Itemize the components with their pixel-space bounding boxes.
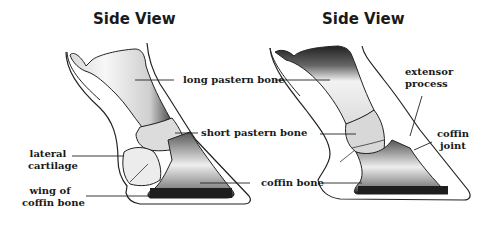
label-wing-of-coffin-bone: wing of coffin bone bbox=[22, 185, 78, 209]
label-extensor-process: extensor process bbox=[405, 66, 453, 90]
label-lateral-cartilage-line1: lateral bbox=[28, 148, 68, 160]
hoof-anatomy-diagram: Side View Side View long pastern bone sh… bbox=[0, 0, 493, 228]
label-coffin-joint-line1: coffin bbox=[436, 128, 470, 140]
label-coffin-joint-line2: joint bbox=[436, 140, 470, 152]
left-hoof-drawing bbox=[66, 43, 250, 204]
left-lateral-cartilage bbox=[123, 148, 161, 186]
left-long-pastern bbox=[70, 49, 170, 127]
label-long-pastern-bone: long pastern bone bbox=[183, 74, 285, 86]
right-panel-title: Side View bbox=[322, 10, 405, 28]
label-lateral-cartilage: lateral cartilage bbox=[28, 148, 68, 172]
label-lateral-cartilage-line2: cartilage bbox=[28, 160, 68, 172]
label-coffin-bone: coffin bone bbox=[261, 177, 324, 189]
left-panel-title: Side View bbox=[93, 10, 176, 28]
label-extensor-line2: process bbox=[405, 78, 453, 90]
label-short-pastern-bone: short pastern bone bbox=[201, 127, 307, 139]
label-extensor-line1: extensor bbox=[405, 66, 453, 78]
label-wing-line2: coffin bone bbox=[22, 197, 78, 209]
label-coffin-joint: coffin joint bbox=[436, 128, 470, 152]
right-long-pastern bbox=[275, 46, 374, 124]
label-wing-line1: wing of bbox=[22, 185, 78, 197]
